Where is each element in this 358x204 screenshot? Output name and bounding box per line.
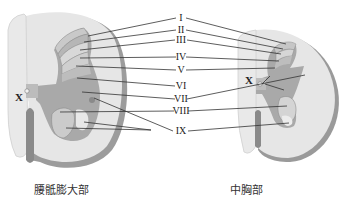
lumbosacral-section xyxy=(8,12,127,168)
lamina-label-9: IX xyxy=(176,126,187,136)
lamina-label-4: IV xyxy=(176,52,187,62)
lamina-label-3: III xyxy=(176,35,186,45)
lamina-label-7: VII xyxy=(174,94,188,104)
lamina-label-5: V xyxy=(177,65,184,75)
lamina-label-8: VIII xyxy=(172,106,189,116)
lamina-label-6: VI xyxy=(176,81,187,91)
lamina-label-1: I xyxy=(179,13,182,23)
central-canal-label-right: X xyxy=(245,74,253,86)
caption-lumbosacral: 腰骶膨大部 xyxy=(34,181,89,197)
central-canal-label-left: X xyxy=(15,91,23,103)
caption-mid-thoracic: 中胸部 xyxy=(230,181,263,197)
mid-thoracic-section xyxy=(238,29,339,162)
